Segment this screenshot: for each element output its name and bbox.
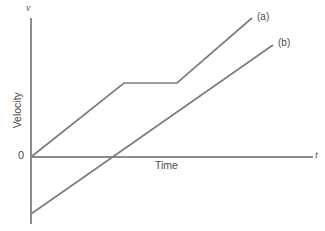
y-axis-title: Velocity <box>12 80 23 140</box>
series-label-a: (a) <box>257 12 269 22</box>
y-axis-symbol: v <box>26 3 30 13</box>
series-label-b: (b) <box>278 38 290 48</box>
x-axis-symbol: t <box>315 150 318 160</box>
origin-label: 0 <box>18 150 24 161</box>
series-line-b <box>31 45 273 214</box>
velocity-time-chart: v t 0 Time Velocity (a) (b) <box>0 0 325 231</box>
chart-canvas <box>0 0 325 231</box>
x-axis-title: Time <box>155 160 178 171</box>
